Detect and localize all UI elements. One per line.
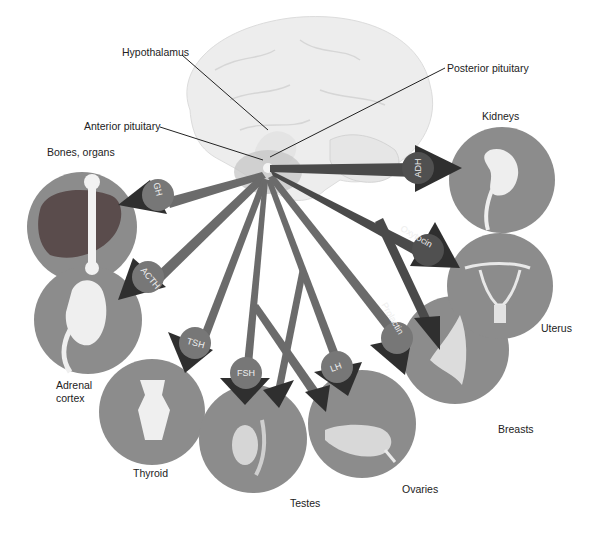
label-breasts: Breasts xyxy=(498,423,534,436)
label-thyroid: Thyroid xyxy=(133,467,168,480)
label-anterior-pituitary: Anterior pituitary xyxy=(84,120,160,133)
label-adrenal-line2: cortex xyxy=(56,392,85,405)
uterus-circle xyxy=(447,233,553,339)
label-posterior-pituitary: Posterior pituitary xyxy=(447,62,529,75)
label-hypothalamus: Hypothalamus xyxy=(122,46,189,59)
hormone-label-fsh: FSH xyxy=(237,368,255,378)
label-ovaries: Ovaries xyxy=(402,483,438,496)
pituitary-hormone-diagram: GH ACTH TSH FSH LH Prolactin Oxytocin AD… xyxy=(0,0,600,541)
label-bones-organs: Bones, organs xyxy=(47,146,115,159)
label-kidneys: Kidneys xyxy=(482,110,519,123)
ovaries-circle xyxy=(308,370,416,478)
label-testes: Testes xyxy=(290,497,320,510)
hormone-label-adh: ADH xyxy=(413,158,423,177)
label-uterus: Uterus xyxy=(541,322,572,335)
label-adrenal-line1: Adrenal xyxy=(56,379,92,392)
